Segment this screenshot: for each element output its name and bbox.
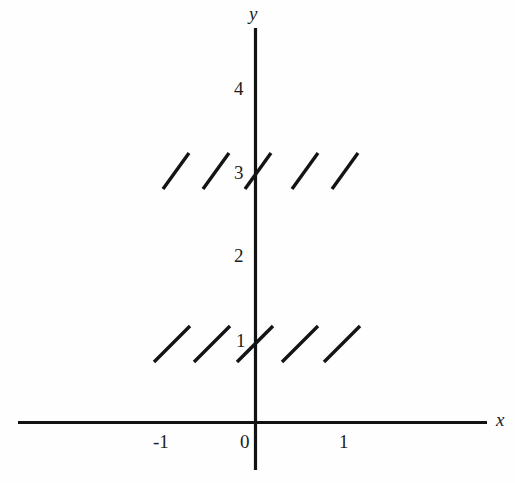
slope-segment <box>245 153 271 189</box>
x-tick-label-1: 1 <box>339 432 349 451</box>
slope-segment <box>163 153 189 189</box>
slope-segment <box>194 326 230 362</box>
x-axis-label: x <box>496 410 504 429</box>
y-tick-label-2: 2 <box>234 246 244 265</box>
slope-segment <box>154 326 190 362</box>
y-tick-label-4: 4 <box>234 79 244 98</box>
slope-segment <box>324 326 360 362</box>
slope-field-canvas <box>0 0 515 483</box>
y-tick-label-3: 3 <box>234 163 244 182</box>
slope-segment <box>282 326 318 362</box>
y-tick-label-1: 1 <box>236 331 246 350</box>
slope-row-upper <box>163 153 358 189</box>
slope-segment <box>203 153 229 189</box>
slope-field-figure: y x 4 3 2 1 -1 0 1 <box>0 0 515 483</box>
y-axis-label: y <box>249 4 257 23</box>
x-tick-label-neg1: -1 <box>153 432 169 451</box>
slope-segment <box>332 153 358 189</box>
x-tick-label-origin: 0 <box>240 432 250 451</box>
slope-segment <box>292 153 318 189</box>
